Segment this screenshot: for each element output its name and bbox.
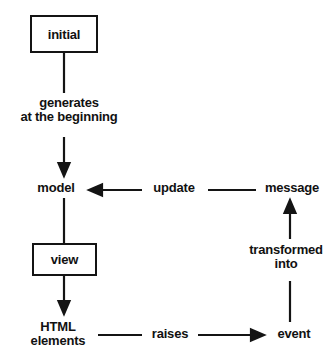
node-message: message	[258, 181, 326, 195]
edge-label-raises: raises	[146, 327, 194, 341]
arrowhead-left-to-model	[89, 185, 102, 196]
arrowhead-up-to-message	[285, 200, 296, 213]
node-event: event	[266, 327, 322, 341]
node-model: model	[24, 181, 88, 195]
arrowhead-right-to-event	[251, 330, 264, 341]
edge-label-generates-at-the-beginning: generates at the beginning	[8, 96, 130, 124]
flow-diagram: initial model view HTML elements event m…	[0, 0, 336, 363]
node-html-elements: HTML elements	[20, 320, 96, 348]
edge-label-update: update	[144, 181, 204, 195]
arrowhead-down-to-model	[59, 163, 70, 176]
node-initial: initial	[30, 15, 98, 53]
node-view: view	[32, 243, 97, 276]
edge-label-transformed-into: transformed into	[236, 243, 336, 271]
arrowhead-down-to-html	[59, 301, 70, 314]
